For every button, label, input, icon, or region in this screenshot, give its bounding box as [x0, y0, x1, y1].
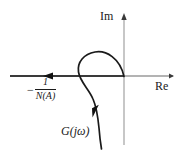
transfer-function-label: G(jω) [61, 125, 89, 137]
fraction-numerator: 1 [40, 77, 51, 88]
imaginary-axis-arrowhead [121, 13, 126, 20]
minus-sign: − [27, 84, 34, 96]
fraction: 1 N(A) [35, 77, 56, 101]
imaginary-axis [121, 13, 126, 145]
fraction-denominator: N(A) [35, 91, 56, 102]
nyquist-plot-figure: Im Re − 1 N(A) G(jω) [0, 0, 181, 155]
negative-inverse-describing-function-label: − 1 N(A) [27, 77, 56, 101]
real-axis-label: Re [155, 80, 168, 92]
imaginary-axis-label: Im [100, 10, 113, 22]
real-axis-arrowhead [169, 74, 174, 79]
